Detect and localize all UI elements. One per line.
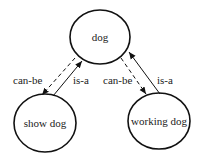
node-dog: dog bbox=[70, 10, 130, 64]
node-show-dog: show dog bbox=[14, 94, 76, 152]
node-working-dog-label: working dog bbox=[131, 115, 187, 127]
edge-label-can-be-right: can-be bbox=[103, 74, 132, 86]
node-dog-label: dog bbox=[92, 31, 109, 43]
edge-label-is-a-left: is-a bbox=[73, 74, 89, 86]
edge-label-is-a-right: is-a bbox=[157, 74, 173, 86]
edge-working-dog-isa-dog bbox=[129, 52, 160, 94]
class-hierarchy-diagram: dog show dog working dog can-be is-a can… bbox=[0, 0, 202, 160]
node-working-dog: working dog bbox=[128, 93, 190, 149]
edge-label-can-be-left: can-be bbox=[13, 74, 42, 86]
node-show-dog-label: show dog bbox=[24, 117, 67, 129]
